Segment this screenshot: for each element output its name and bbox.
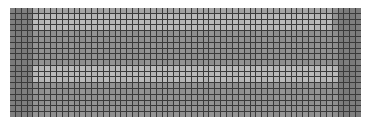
grid-cell — [209, 60, 214, 65]
grid-cell — [268, 95, 273, 100]
grid-cell — [98, 54, 103, 59]
grid-cell — [333, 95, 338, 100]
grid-cell — [57, 49, 62, 54]
grid-cell — [221, 112, 226, 117]
grid-cell — [280, 60, 285, 65]
grid-cell — [16, 77, 21, 82]
grid-cell — [309, 43, 314, 48]
grid-cell — [321, 83, 326, 88]
grid-cell — [121, 8, 126, 13]
grid-cell — [168, 77, 173, 82]
grid-cell — [245, 31, 250, 36]
grid-cell — [209, 77, 214, 82]
grid-cell — [133, 77, 138, 82]
grid-cell — [198, 60, 203, 65]
grid-cell — [274, 112, 279, 117]
grid-cell — [209, 31, 214, 36]
grid-cell — [139, 20, 144, 25]
grid-cell — [280, 72, 285, 77]
grid-cell — [274, 95, 279, 100]
grid-cell — [321, 106, 326, 111]
grid-cell — [297, 89, 302, 94]
grid-cell — [327, 60, 332, 65]
grid-cell — [221, 31, 226, 36]
grid-cell — [286, 20, 291, 25]
grid-cell — [204, 106, 209, 111]
grid-cell — [274, 66, 279, 71]
grid-cell — [16, 112, 21, 117]
grid-cell — [245, 43, 250, 48]
grid-cell — [192, 43, 197, 48]
grid-cell — [251, 25, 256, 30]
grid-cell — [80, 20, 85, 25]
grid-cell — [180, 49, 185, 54]
grid-cell — [139, 72, 144, 77]
grid-cell — [110, 83, 115, 88]
grid-cell — [286, 25, 291, 30]
grid-cell — [45, 112, 50, 117]
grid-cell — [327, 106, 332, 111]
grid-cell — [92, 83, 97, 88]
grid-cell — [321, 60, 326, 65]
grid-cell — [262, 20, 267, 25]
grid-cell — [268, 14, 273, 19]
grid-cell — [315, 14, 320, 19]
grid-cell — [356, 89, 361, 94]
grid-cell — [209, 83, 214, 88]
grid-cell — [215, 60, 220, 65]
grid-cell — [215, 72, 220, 77]
grid-cell — [163, 49, 168, 54]
grid-cell — [45, 89, 50, 94]
grid-cell — [168, 112, 173, 117]
grid-cell — [33, 14, 38, 19]
grid-cell — [344, 89, 349, 94]
grid-cell — [133, 89, 138, 94]
grid-cell — [356, 106, 361, 111]
grid-cell — [51, 106, 56, 111]
grid-cell — [57, 89, 62, 94]
grid-cell — [10, 89, 15, 94]
grid-cell — [192, 20, 197, 25]
grid-cell — [245, 106, 250, 111]
grid-cell — [10, 60, 15, 65]
grid-cell — [22, 83, 27, 88]
grid-cell — [86, 20, 91, 25]
grid-cell — [186, 14, 191, 19]
grid-cell — [39, 66, 44, 71]
grid-cell — [274, 60, 279, 65]
grid-cell — [344, 60, 349, 65]
grid-cell — [209, 8, 214, 13]
grid-cell — [157, 89, 162, 94]
grid-cell — [127, 25, 132, 30]
grid-cell — [16, 8, 21, 13]
grid-cell — [63, 101, 68, 106]
grid-cell — [327, 89, 332, 94]
grid-cell — [327, 20, 332, 25]
grid-cell — [256, 66, 261, 71]
grid-cell — [28, 101, 33, 106]
grid-cell — [339, 106, 344, 111]
grid-cell — [192, 72, 197, 77]
grid-cell — [204, 72, 209, 77]
grid-cell — [339, 101, 344, 106]
grid-cell — [256, 43, 261, 48]
grid-cell — [333, 49, 338, 54]
grid-cell — [198, 43, 203, 48]
grid-cell — [28, 95, 33, 100]
grid-cell — [309, 106, 314, 111]
grid-cell — [33, 20, 38, 25]
grid-cell — [104, 43, 109, 48]
grid-cell — [116, 14, 121, 19]
grid-cell — [163, 106, 168, 111]
grid-cell — [92, 43, 97, 48]
grid-cell — [121, 101, 126, 106]
grid-cell — [204, 25, 209, 30]
grid-cell — [280, 106, 285, 111]
grid-cell — [80, 31, 85, 36]
grid-cell — [75, 31, 80, 36]
grid-cell — [204, 95, 209, 100]
grid-cell — [344, 20, 349, 25]
grid-cell — [174, 31, 179, 36]
grid-cell — [69, 20, 74, 25]
grid-cell — [344, 112, 349, 117]
